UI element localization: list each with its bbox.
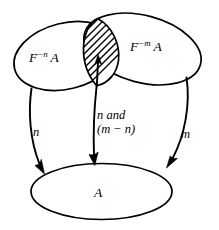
set-diagram-figure: F−n A F−m A A n n and(m − n) m [0,0,219,230]
right-set-label: F−m A [130,39,162,54]
right-set-label-operand: A [153,39,161,54]
right-set-label-base: F [130,39,138,54]
intersection-pointer-shaft [97,62,98,87]
left-arrow-label: n [33,125,39,139]
right-arrow-head [167,156,178,168]
left-set-label-base: F [29,50,37,65]
left-set-label-exponent: −n [37,49,47,59]
center-arrow-label-line2: (m − n) [97,122,135,136]
center-arrow-label-line1: n and [97,108,125,122]
left-set-label: F−n A [29,50,59,65]
left-set-label-operand: A [50,50,58,65]
left-arrow-head [35,159,45,174]
target-set-label: A [94,185,102,200]
right-set-label-exponent: −m [138,38,150,48]
right-arrow-label: m [181,127,190,141]
right-arrow-shaft [173,78,188,159]
center-arrow-label: n and(m − n) [97,108,135,136]
